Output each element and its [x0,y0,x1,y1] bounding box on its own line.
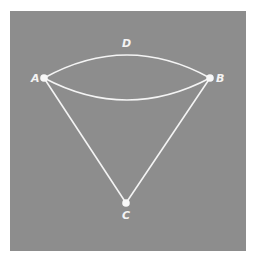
graph-diagram: A B C D [0,0,257,264]
edge-a-c [44,78,126,203]
edge-a-b-lower-arc [44,78,210,100]
label-d: D [122,37,131,50]
label-a: A [30,72,40,85]
node-c [122,199,130,207]
label-b: B [216,72,224,85]
edge-b-c [126,78,210,203]
node-a [40,74,48,82]
label-c: C [122,209,130,222]
node-b [206,74,214,82]
edge-a-b-upper-arc [44,55,210,78]
